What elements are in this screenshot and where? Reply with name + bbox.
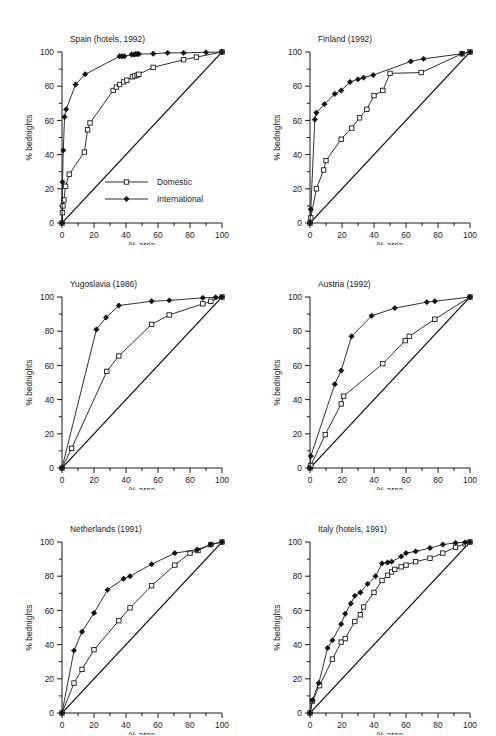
y-tick-label: 100: [40, 47, 54, 57]
y-tick-label: 100: [288, 537, 302, 547]
x-tick-label: 20: [337, 230, 347, 240]
data-point: [361, 605, 365, 609]
data-point: [61, 204, 65, 208]
x-tick-label: 20: [337, 720, 347, 730]
y-axis-label: % bednights: [24, 114, 34, 160]
y-tick-label: 0: [49, 463, 54, 473]
y-axis-label: % bednights: [24, 604, 34, 650]
y-axis-label: % bednights: [272, 359, 282, 405]
data-point: [117, 618, 121, 622]
panel-title: Netherlands (1991): [70, 524, 142, 534]
data-point: [194, 55, 198, 59]
data-point: [352, 593, 357, 598]
y-tick-label: 60: [45, 116, 55, 126]
x-tick-label: 80: [185, 475, 195, 485]
chart-panel-finland-1992: Finland (1992)020406080100020406080100% …: [248, 0, 496, 245]
x-tick-label: 40: [121, 475, 131, 485]
x-tick-label: 20: [89, 230, 99, 240]
y-tick-label: 0: [297, 463, 302, 473]
y-tick-label: 20: [293, 184, 303, 194]
y-tick-label: 40: [45, 640, 55, 650]
legend-label-international: International: [157, 194, 203, 204]
x-tick-label: 40: [369, 230, 379, 240]
data-point: [399, 565, 403, 569]
y-tick-label: 60: [293, 606, 303, 616]
data-point: [343, 611, 348, 616]
data-point: [339, 368, 344, 373]
y-tick-label: 20: [293, 674, 303, 684]
x-tick-label: 80: [185, 720, 195, 730]
y-tick-label: 0: [49, 708, 54, 718]
panel-title: Austria (1992): [318, 279, 371, 289]
data-point: [381, 361, 385, 365]
data-point: [149, 299, 154, 304]
y-tick-label: 100: [288, 47, 302, 57]
x-tick-label: 0: [308, 720, 313, 730]
y-tick-label: 0: [49, 218, 54, 228]
y-tick-label: 80: [45, 81, 55, 91]
x-tick-label: 0: [60, 475, 65, 485]
data-point: [181, 50, 186, 55]
data-point: [392, 305, 397, 310]
data-point: [85, 128, 89, 132]
data-point: [403, 338, 407, 342]
data-point: [321, 168, 325, 172]
data-point: [63, 184, 67, 188]
equality-diagonal: [62, 297, 222, 468]
panel-plot: Yugoslavia (1986)02040608010002040608010…: [0, 245, 248, 490]
y-tick-label: 20: [45, 184, 55, 194]
data-point: [128, 606, 132, 610]
data-point: [61, 148, 66, 153]
data-point: [62, 114, 67, 119]
data-point: [209, 299, 213, 303]
data-point: [348, 601, 353, 606]
legend-marker: [124, 196, 129, 201]
y-axis-label: % bednights: [272, 604, 282, 650]
x-tick-label: 60: [153, 475, 163, 485]
y-tick-label: 60: [293, 361, 303, 371]
data-point: [167, 313, 171, 317]
x-tick-label: 40: [121, 720, 131, 730]
y-tick-label: 60: [45, 361, 55, 371]
data-point: [79, 629, 84, 634]
data-point: [201, 302, 205, 306]
data-point: [421, 56, 426, 61]
data-point: [151, 51, 156, 56]
data-point: [353, 619, 357, 623]
x-tick-label: 100: [463, 475, 477, 485]
legend: DomesticInternational: [105, 177, 203, 204]
x-tick-label: 20: [89, 720, 99, 730]
data-point: [127, 574, 132, 579]
y-tick-label: 40: [45, 395, 55, 405]
data-point: [357, 116, 361, 120]
y-tick-label: 80: [293, 326, 303, 336]
data-point: [332, 382, 337, 387]
data-point: [427, 545, 432, 550]
x-tick-label: 80: [433, 475, 443, 485]
data-point: [404, 563, 408, 567]
x-tick-label: 60: [401, 230, 411, 240]
data-point: [72, 681, 76, 685]
data-point: [121, 576, 126, 581]
x-tick-label: 60: [153, 720, 163, 730]
equality-diagonal: [62, 542, 222, 713]
y-tick-label: 80: [293, 571, 303, 581]
data-point: [88, 121, 92, 125]
data-point: [167, 298, 172, 303]
data-point: [92, 648, 96, 652]
x-tick-label: 20: [89, 475, 99, 485]
data-point: [188, 551, 192, 555]
data-point: [432, 299, 437, 304]
x-tick-label: 80: [433, 720, 443, 730]
data-point: [389, 559, 394, 564]
data-point: [424, 299, 429, 304]
x-tick-label: 80: [185, 230, 195, 240]
data-point: [105, 587, 110, 592]
y-tick-label: 40: [45, 150, 55, 160]
data-point: [361, 75, 366, 80]
data-point: [413, 559, 417, 563]
data-point: [91, 610, 96, 615]
data-point: [381, 88, 385, 92]
x-tick-label: 100: [215, 475, 229, 485]
data-point: [358, 612, 362, 616]
